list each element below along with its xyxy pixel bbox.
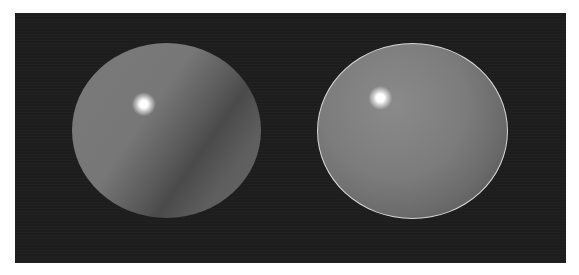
render-panel	[15, 13, 566, 263]
left-sphere	[72, 43, 261, 218]
right-sphere	[317, 43, 508, 219]
